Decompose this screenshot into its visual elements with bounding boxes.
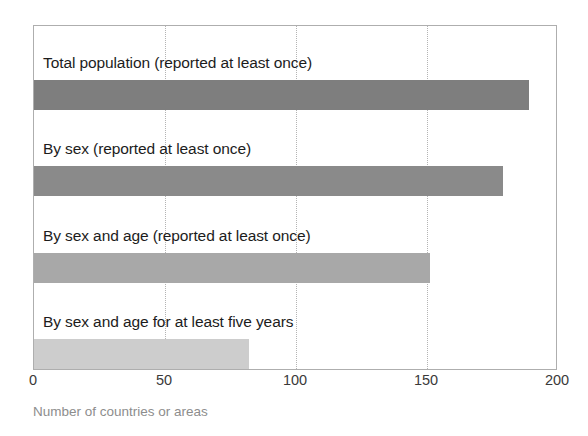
- x-tick-label-100: 100: [283, 372, 307, 388]
- bar-label: By sex and age for at least five years: [43, 313, 293, 331]
- x-tick-label-0: 0: [29, 372, 37, 388]
- bar: [34, 80, 529, 110]
- bar-label: Total population (reported at least once…: [43, 54, 312, 72]
- x-tick-label-200: 200: [545, 372, 569, 388]
- bar-label: By sex (reported at least once): [43, 140, 251, 158]
- bar-group: By sex (reported at least once): [34, 112, 556, 198]
- x-tick-label-50: 50: [156, 372, 172, 388]
- bar: [34, 166, 503, 196]
- bar: [34, 339, 249, 369]
- x-axis-tick-labels: 050100150200: [0, 372, 588, 398]
- bar-group: By sex and age (reported at least once): [34, 199, 556, 285]
- x-tick-label-150: 150: [414, 372, 438, 388]
- bar-group: By sex and age for at least five years: [34, 285, 556, 370]
- bar: [34, 253, 430, 283]
- plot-area: Total population (reported at least once…: [33, 25, 557, 370]
- x-axis-caption: Number of countries or areas: [33, 404, 208, 419]
- bar-chart-figure: Total population (reported at least once…: [0, 0, 588, 436]
- bar-label: By sex and age (reported at least once): [43, 227, 311, 245]
- bar-group: Total population (reported at least once…: [34, 26, 556, 112]
